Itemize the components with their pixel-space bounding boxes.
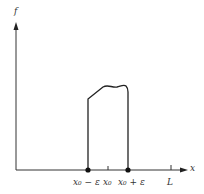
x-axis-arrow-icon: [180, 168, 188, 173]
tick-label-right-edge: x₀ + ε: [118, 178, 145, 187]
tick-label-center: x₀: [103, 178, 112, 187]
x-axis-label: x: [190, 164, 195, 173]
pulse-diagram: [0, 0, 204, 194]
y-axis-label: f: [14, 7, 17, 16]
right-endpoint-dot: [125, 167, 130, 172]
pulse-curve: [88, 85, 128, 170]
tick-label-left-edge: x₀ − ε: [73, 178, 100, 187]
tick-label-end: L: [167, 178, 173, 187]
left-endpoint-dot: [85, 167, 90, 172]
y-axis-arrow-icon: [14, 22, 19, 30]
